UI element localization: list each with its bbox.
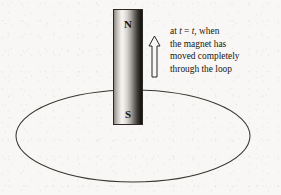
caption-text-block: at t = t, when the magnet has moved comp…	[170, 25, 278, 75]
magnet-north-pole-label: N	[114, 19, 142, 30]
caption-line-3: moved completely	[170, 50, 278, 63]
caption-line-2: the magnet has	[170, 38, 278, 51]
arrow-up-outline	[149, 36, 160, 77]
caption-line-1: at t = t, when	[170, 25, 278, 38]
caption-line-4: through the loop	[170, 63, 278, 76]
bar-magnet: N S	[113, 9, 143, 125]
caption-line-1-post: , when	[194, 26, 219, 36]
caption-line-1-pre: at	[170, 26, 179, 36]
magnet-through-loop-figure: N S at t = t, when the magnet has moved …	[0, 0, 281, 195]
upward-motion-arrow-icon	[148, 35, 161, 78]
magnet-south-pole-label: S	[114, 109, 142, 120]
caption-line-1-equals: =	[182, 26, 192, 36]
